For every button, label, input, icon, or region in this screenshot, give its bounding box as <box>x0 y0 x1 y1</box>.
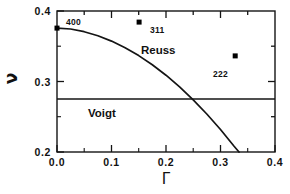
x-axis-title: Γ <box>146 172 186 187</box>
region-label-reuss: Reuss <box>141 45 176 57</box>
data-point-400-marker <box>55 26 60 31</box>
y-tick-label-0.2: 0.2 <box>21 147 51 158</box>
phase-diagram-chart: 0.4 0.3 0.2 0.0 0.1 0.2 0.3 0.4 ν Γ Reus… <box>0 0 290 194</box>
y-tick-label-0.3: 0.3 <box>21 77 51 88</box>
data-point-311-marker <box>137 20 142 25</box>
data-point-label-311: 311 <box>150 26 165 35</box>
x-tick-label-0.4: 0.4 <box>255 157 290 168</box>
y-axis-title: ν <box>3 69 20 89</box>
plot-frame <box>57 11 275 152</box>
y-axis-right-ticks <box>268 46 275 117</box>
region-label-voigt: Voigt <box>88 108 116 120</box>
x-axis-top-ticks <box>84 11 248 18</box>
x-axis-major-ticks <box>57 145 275 152</box>
y-tick-label-0.4: 0.4 <box>21 6 51 17</box>
data-point-label-222: 222 <box>213 70 228 79</box>
data-point-222-marker <box>233 53 238 58</box>
y-axis-major-ticks <box>57 11 64 152</box>
data-point-label-400: 400 <box>66 18 81 27</box>
x-tick-label-0.3: 0.3 <box>201 157 241 168</box>
x-tick-label-0.2: 0.2 <box>146 157 186 168</box>
x-tick-label-0.1: 0.1 <box>92 157 132 168</box>
x-tick-label-0.0: 0.0 <box>37 157 77 168</box>
